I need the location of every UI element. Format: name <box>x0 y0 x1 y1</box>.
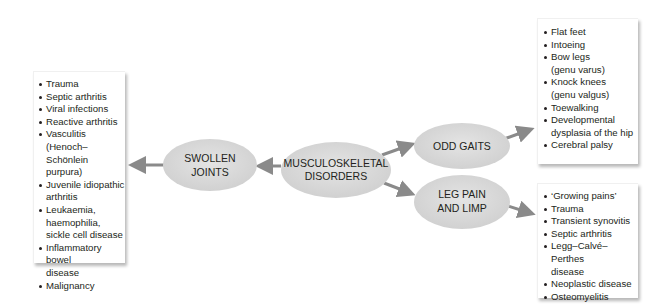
list-item-text: ‘Growing pains’ <box>551 190 617 201</box>
list-item: Reactive arthritis <box>38 116 125 129</box>
list-item-text: Reactive arthritis <box>46 116 117 127</box>
odd-gaits-causes-list: Flat feetIntoeingBow legs(genu varus)Kno… <box>537 18 638 164</box>
arrow-odd-gaits-to-list <box>504 130 529 139</box>
node-leg-pain-and-limp: LEG PAIN AND LIMP <box>414 175 510 229</box>
node-odd-gaits: ODD GAITS <box>414 123 510 169</box>
list-item-text: Osteomyelitis <box>551 291 609 302</box>
list-item: Cerebral palsy <box>543 139 638 152</box>
list-item-text: Bow legs <box>551 51 590 62</box>
list-item-text: Septic arthritis <box>46 91 107 102</box>
node-odd-gaits-label: ODD GAITS <box>433 140 491 152</box>
list-item: Osteomyelitis <box>543 291 638 304</box>
list-item-text: Cerebral palsy <box>551 139 613 150</box>
list-item: ‘Growing pains’ <box>543 190 638 203</box>
arrow-center-to-leg-pain <box>384 183 410 193</box>
list-item: Juvenile idiopathicarthritis <box>38 179 125 204</box>
node-leg-pain-line1: LEG PAIN <box>438 188 486 200</box>
node-swollen-line1: SWOLLEN <box>184 152 235 164</box>
list-item: Septic arthritis <box>543 228 638 241</box>
list-item: Flat feet <box>543 26 638 39</box>
cause-list: TraumaSeptic arthritisViral infectionsRe… <box>38 78 125 292</box>
list-item: Leukaemia,haemophilia,sickle cell diseas… <box>38 204 125 242</box>
list-item-text: Intoeing <box>551 39 585 50</box>
list-item: Developmentaldysplasia of the hip <box>543 114 638 139</box>
list-item-text: Legg–Calvé–Perthes <box>551 240 608 264</box>
list-item-text: dysplasia of the hip <box>551 127 633 138</box>
list-item-text: Developmental <box>551 114 615 125</box>
leg-pain-causes-list: ‘Growing pains’TraumaTransient synovitis… <box>537 183 638 298</box>
list-item-text: (genu valgus) <box>551 89 609 100</box>
list-item: Trauma <box>38 78 125 91</box>
node-leg-pain-line2: AND LIMP <box>437 202 487 214</box>
list-item-text: Leukaemia, <box>46 204 96 215</box>
list-item-text: Vasculitis (Henoch– <box>46 128 88 152</box>
list-item-text: arthritis <box>46 191 77 202</box>
list-item-text: haemophilia, <box>46 217 100 228</box>
list-item-text: (genu varus) <box>551 64 605 75</box>
list-item: Transient synovitis <box>543 215 638 228</box>
list-item-text: Septic arthritis <box>551 228 612 239</box>
list-item-text: Juvenile idiopathic <box>46 179 124 190</box>
cause-list: Flat feetIntoeingBow legs(genu varus)Kno… <box>543 26 638 152</box>
list-item: Bow legs(genu varus) <box>543 51 638 76</box>
list-item: Vasculitis (Henoch–Schönlein purpura) <box>38 128 125 178</box>
list-item: Inflammatory boweldisease <box>38 242 125 280</box>
list-item: Viral infections <box>38 103 125 116</box>
arrow-center-to-odd-gaits <box>382 145 410 155</box>
list-item: Malignancy <box>38 280 125 293</box>
node-swollen-joints: SWOLLEN JOINTS <box>163 139 257 191</box>
list-item-text: Neoplastic disease <box>551 278 632 289</box>
list-item-text: disease <box>46 267 79 278</box>
list-item: Toewalking <box>543 102 638 115</box>
list-item-text: Knock knees <box>551 76 606 87</box>
list-item-text: Trauma <box>551 203 584 214</box>
swollen-joints-causes-list: TraumaSeptic arthritisViral infectionsRe… <box>33 71 125 263</box>
node-swollen-line2: JOINTS <box>191 166 228 178</box>
node-center-line1: MUSCULOSKELETAL <box>284 157 389 169</box>
list-item: Trauma <box>543 203 638 216</box>
list-item-text: Schönlein purpura) <box>46 154 88 178</box>
list-item-text: Malignancy <box>46 280 95 291</box>
list-item: Knock knees(genu valgus) <box>543 76 638 101</box>
node-center-line2: DISORDERS <box>305 170 367 182</box>
list-item-text: Flat feet <box>551 26 586 37</box>
list-item-text: Toewalking <box>551 102 598 113</box>
list-item-text: sickle cell disease <box>46 229 123 240</box>
list-item-text: Trauma <box>46 78 79 89</box>
list-item-text: disease <box>551 266 584 277</box>
list-item-text: Viral infections <box>46 103 108 114</box>
list-item-text: Inflammatory bowel <box>46 242 101 266</box>
list-item-text: Transient synovitis <box>551 215 630 226</box>
list-item: Intoeing <box>543 39 638 52</box>
node-musculoskeletal-disorders: MUSCULOSKELETAL DISORDERS <box>281 142 391 198</box>
list-item: Legg–Calvé–Perthesdisease <box>543 240 638 278</box>
cause-list: ‘Growing pains’TraumaTransient synovitis… <box>543 190 638 303</box>
list-item: Septic arthritis <box>38 91 125 104</box>
list-item: Neoplastic disease <box>543 278 638 291</box>
